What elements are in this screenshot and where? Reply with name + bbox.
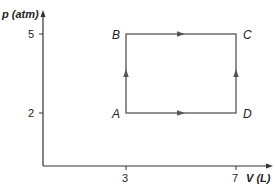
x-axis-arrow-icon bbox=[266, 164, 273, 169]
pv-diagram: p (atm) V (L) 5 2 3 7 B C A D bbox=[0, 0, 275, 188]
cycle-path bbox=[126, 34, 236, 113]
arrow-a-to-b-icon bbox=[123, 69, 128, 77]
point-label-a: A bbox=[111, 107, 120, 121]
point-label-b: B bbox=[112, 28, 120, 42]
arrow-d-to-c-icon bbox=[233, 69, 238, 77]
point-label-c: C bbox=[243, 28, 252, 42]
y-axis-arrow-icon bbox=[41, 10, 46, 17]
y-axis-label: p (atm) bbox=[1, 8, 39, 20]
y-tick-label-5: 5 bbox=[28, 28, 34, 40]
x-tick-label-7: 7 bbox=[232, 172, 238, 184]
arrow-b-to-c-icon bbox=[177, 31, 185, 36]
arrow-a-to-d-icon bbox=[177, 110, 185, 115]
x-axis-label: V (L) bbox=[246, 172, 271, 184]
y-tick-label-2: 2 bbox=[28, 107, 34, 119]
x-tick-label-3: 3 bbox=[122, 172, 128, 184]
point-label-d: D bbox=[243, 107, 252, 121]
